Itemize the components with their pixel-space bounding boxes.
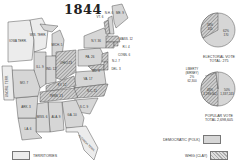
state-ri (114, 42, 118, 46)
svg-text:IND. 12: IND. 12 (46, 67, 57, 71)
svg-text:S.C. 9: S.C. 9 (80, 105, 89, 109)
svg-text:WIS. TERR.: WIS. TERR. (30, 33, 46, 37)
svg-text:N.C. 11: N.C. 11 (87, 89, 97, 93)
state-nj (102, 52, 108, 62)
svg-text:KY. 12: KY. 12 (58, 83, 67, 87)
svg-text:170: 170 (223, 33, 228, 37)
svg-text:ARK. 3: ARK. 3 (21, 105, 31, 109)
state-del (104, 62, 108, 70)
svg-text:GA. 10: GA. 10 (67, 113, 77, 117)
whig-swatch (210, 151, 228, 160)
svg-text:R.I. 4: R.I. 4 (122, 45, 130, 49)
state-ohio (56, 50, 76, 80)
svg-text:MISS. 6: MISS. 6 (37, 115, 48, 119)
legend-territories-label: TERRITORIES (33, 154, 57, 158)
svg-text:ILL. 9: ILL. 9 (36, 65, 44, 69)
svg-text:MO. 7: MO. 7 (20, 81, 28, 85)
svg-text:N.H. 6: N.H. 6 (105, 11, 114, 15)
legend-territories: TERRITORIES (12, 151, 57, 160)
svg-text:TENN. 13: TENN. 13 (49, 94, 63, 98)
svg-text:ME. 9: ME. 9 (116, 11, 124, 15)
svg-text:1,299,062: 1,299,062 (203, 92, 217, 96)
svg-text:105: 105 (207, 27, 212, 31)
state-ny (84, 28, 108, 48)
legend-democratic-label: DEMOCRATIC (POLK) (163, 138, 200, 142)
state-me (112, 4, 128, 28)
electoral-vote-pie: 38% 105 62% 170 (201, 13, 235, 47)
svg-text:LA. 6: LA. 6 (24, 127, 31, 131)
svg-text:MD. 8: MD. 8 (92, 69, 100, 73)
svg-text:VT. 6: VT. 6 (97, 15, 104, 19)
svg-text:MASS. 12: MASS. 12 (119, 37, 133, 41)
popular-vote-caption: POPULAR VOTE TOTAL 2,698,605 (198, 114, 240, 122)
electoral-vote-caption: ELECTORAL VOTE TOTAL: 275 (198, 55, 240, 63)
popular-vote-pie: LIBERTY (BIRNEY) 2% 62,300 48% 1,299,062… (185, 67, 235, 106)
legend-democratic: DEMOCRATIC (POLK) (163, 135, 221, 144)
svg-text:1,337,243: 1,337,243 (220, 92, 234, 96)
svg-text:PA. 26: PA. 26 (86, 55, 95, 59)
state-mass (106, 36, 120, 42)
svg-text:OHIO 23: OHIO 23 (60, 61, 72, 65)
svg-text:N.Y. 36: N.Y. 36 (91, 39, 101, 43)
territories-swatch (12, 151, 30, 160)
legend-whig: WHIG (CLAY) (185, 151, 228, 160)
legend-whig-label: WHIG (CLAY) (185, 154, 207, 158)
svg-text:62,300: 62,300 (187, 79, 197, 83)
state-fla (66, 126, 98, 160)
state-conn (106, 42, 114, 48)
svg-text:DEL. 3: DEL. 3 (111, 67, 121, 71)
democratic-swatch (203, 135, 221, 144)
svg-text:N.J. 7: N.J. 7 (112, 59, 120, 63)
svg-text:CONN. 6: CONN. 6 (118, 53, 131, 57)
svg-text:(BIRNEY): (BIRNEY) (185, 71, 198, 75)
svg-text:ALA. 9: ALA. 9 (51, 115, 60, 119)
svg-text:VA. 17: VA. 17 (84, 77, 93, 81)
svg-text:IOWA TERR.: IOWA TERR. (9, 39, 27, 43)
svg-text:UNORG. TERR.: UNORG. TERR. (5, 75, 9, 97)
svg-text:MICH. 5: MICH. 5 (51, 43, 62, 47)
